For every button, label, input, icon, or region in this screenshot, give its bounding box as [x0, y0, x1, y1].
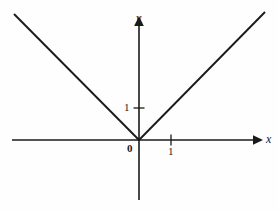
- x-tick-label-1: 1: [168, 146, 174, 157]
- graph-figure: y x 0 1 1: [0, 0, 278, 213]
- y-axis-label: y: [136, 12, 141, 24]
- origin-label: 0: [127, 143, 133, 154]
- x-axis-label: x: [266, 133, 271, 145]
- y-tick-label-1: 1: [124, 102, 130, 113]
- x-axis-arrowhead: [253, 135, 263, 145]
- curve-left-branch: [14, 14, 139, 140]
- curve-right-branch: [139, 12, 265, 140]
- absolute-value-plot: [0, 0, 278, 213]
